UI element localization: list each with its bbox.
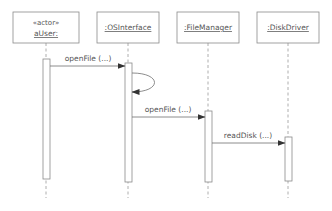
message-self-call [132, 73, 155, 92]
message-label: readDisk (...) [224, 131, 272, 140]
participant-name: :FileManager [184, 23, 233, 32]
participant-name: aUser: [34, 29, 58, 38]
activation-diskdriver [285, 137, 292, 181]
message-readdisk: readDisk (...) [212, 131, 285, 143]
message-label: openFile (...) [145, 105, 192, 114]
message-openfile-1: openFile (...) [50, 54, 125, 66]
participant-filemanager: :FileManager [177, 12, 239, 43]
participant-diskdriver: :DiskDriver [257, 12, 319, 43]
activation-filemanager [205, 111, 212, 182]
participant-name: :DiskDriver [267, 23, 310, 32]
message-label: openFile (...) [65, 54, 112, 63]
sequence-diagram: «actor» aUser: :OSInterface :FileManager… [0, 0, 332, 211]
message-openfile-2: openFile (...) [132, 105, 205, 117]
activation-auser [43, 59, 50, 179]
activation-osinterface [125, 63, 132, 182]
participant-stereotype: «actor» [33, 19, 60, 27]
participant-auser: «actor» aUser: [13, 12, 79, 43]
participant-name: :OSInterface [105, 23, 152, 32]
participant-osinterface: :OSInterface [97, 12, 159, 43]
